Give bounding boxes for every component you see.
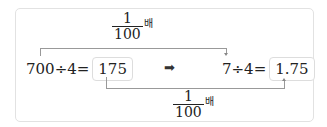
left-answer-box: 175: [92, 57, 133, 81]
bottom-suffix: 배: [205, 93, 214, 108]
arrow-down-icon: [224, 53, 228, 56]
left-equation: 700÷4= 175: [26, 57, 133, 81]
bottom-bracket-left-leg: [106, 77, 107, 88]
bottom-bracket-right-leg: [284, 80, 285, 88]
right-equation: 7÷4= 1.75: [222, 57, 315, 81]
top-bracket-horizontal: [40, 48, 227, 49]
left-expression: 700÷4=: [26, 60, 89, 78]
bottom-multiplier-label: 1 100 배: [173, 89, 214, 120]
top-numerator: 1: [121, 11, 134, 26]
top-multiplier-label: 1 100 배: [112, 11, 153, 42]
right-arrow-icon: ➡: [164, 60, 175, 75]
arrow-up-icon: [282, 78, 286, 81]
top-suffix: 배: [144, 15, 153, 30]
right-answer-box: 1.75: [269, 57, 314, 81]
right-expression: 7÷4=: [222, 60, 266, 78]
bottom-denominator: 100: [173, 104, 204, 120]
top-denominator: 100: [112, 26, 143, 42]
bottom-numerator: 1: [182, 89, 195, 104]
top-bracket-left-leg: [40, 48, 41, 56]
